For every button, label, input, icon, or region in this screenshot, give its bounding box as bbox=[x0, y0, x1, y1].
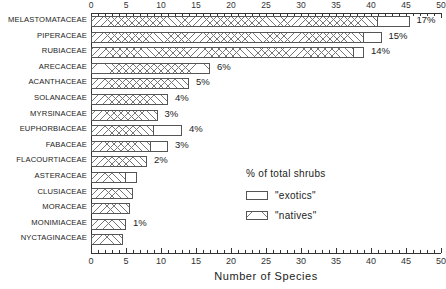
percent-label: 1% bbox=[133, 217, 147, 228]
minor-tick-bottom-9 bbox=[154, 250, 155, 253]
bar-segment-exotics bbox=[377, 16, 410, 27]
legend-title: % of total shrubs bbox=[246, 168, 326, 179]
minor-tick-bottom-3 bbox=[112, 250, 113, 253]
minor-tick-bottom-26 bbox=[273, 250, 274, 253]
minor-tick-bottom-1 bbox=[98, 250, 99, 253]
bar-group bbox=[91, 141, 168, 152]
minor-tick-bottom-11 bbox=[168, 250, 169, 253]
percent-label: 17% bbox=[417, 14, 436, 25]
bar-segment-natives bbox=[91, 47, 354, 58]
xtick-label-bottom-30: 30 bbox=[296, 256, 306, 266]
xtick-label-top-10: 10 bbox=[156, 0, 165, 10]
minor-tick-bottom-43 bbox=[392, 250, 393, 253]
category-label: EUPHORBIACEAE bbox=[0, 124, 87, 133]
bar-group bbox=[91, 47, 364, 58]
bar-group bbox=[91, 188, 133, 199]
major-tick-bottom-15 bbox=[196, 248, 197, 253]
category-label: ARECACEAE bbox=[0, 62, 87, 71]
shrub-species-bar-chart: 0055101015152020252530303535404045455050… bbox=[0, 0, 446, 289]
major-tick-bottom-5 bbox=[126, 248, 127, 253]
percent-label: 4% bbox=[175, 92, 189, 103]
major-tick-bottom-35 bbox=[336, 248, 337, 253]
xtick-label-bottom-0: 0 bbox=[88, 256, 93, 266]
minor-tick-bottom-18 bbox=[217, 250, 218, 253]
xtick-label-top-5: 5 bbox=[124, 0, 129, 10]
x-axis-label: Number of Species bbox=[91, 270, 441, 282]
bar-segment-exotics bbox=[150, 141, 169, 152]
xtick-label-top-30: 30 bbox=[296, 0, 305, 10]
bar-segment-natives bbox=[91, 156, 147, 167]
bar-segment-exotics bbox=[363, 32, 382, 43]
minor-tick-bottom-36 bbox=[343, 250, 344, 253]
category-label: MONIMIACEAE bbox=[0, 218, 87, 227]
bar-group bbox=[91, 110, 158, 121]
minor-tick-bottom-38 bbox=[357, 250, 358, 253]
legend-entry-exotics: "exotics" bbox=[246, 189, 316, 201]
legend-label-natives: "natives" bbox=[275, 210, 316, 221]
bar-group bbox=[91, 234, 123, 245]
minor-tick-bottom-41 bbox=[378, 250, 379, 253]
chart-row: EUPHORBIACEAE4% bbox=[0, 123, 446, 138]
major-tick-bottom-30 bbox=[301, 248, 302, 253]
xtick-label-bottom-50: 50 bbox=[436, 256, 446, 266]
xtick-label-top-20: 20 bbox=[226, 0, 235, 10]
chart-row: CLUSIACEAE bbox=[0, 186, 446, 201]
major-tick-bottom-40 bbox=[371, 248, 372, 253]
minor-tick-bottom-22 bbox=[245, 250, 246, 253]
legend-swatch-exotics-icon bbox=[246, 191, 268, 200]
bar-segment-natives bbox=[91, 110, 158, 121]
xtick-label-top-25: 25 bbox=[261, 0, 270, 10]
bar-segment-natives bbox=[91, 172, 126, 183]
minor-tick-bottom-31 bbox=[308, 250, 309, 253]
minor-tick-bottom-12 bbox=[175, 250, 176, 253]
percent-label: 15% bbox=[389, 30, 408, 41]
bar-segment-natives bbox=[91, 16, 378, 27]
xtick-label-bottom-15: 15 bbox=[191, 256, 201, 266]
major-tick-bottom-0 bbox=[91, 248, 92, 253]
bar-group bbox=[91, 203, 130, 214]
category-label: PIPERACEAE bbox=[0, 31, 87, 40]
major-tick-bottom-50 bbox=[441, 248, 442, 253]
major-tick-bottom-45 bbox=[406, 248, 407, 253]
percent-label: 14% bbox=[371, 45, 390, 56]
minor-tick-bottom-7 bbox=[140, 250, 141, 253]
minor-tick-bottom-34 bbox=[329, 250, 330, 253]
chart-row: NYCTAGINACEAE bbox=[0, 232, 446, 247]
category-label: FLACOURTIACEAE bbox=[0, 155, 87, 164]
chart-row: SOLANACEAE4% bbox=[0, 92, 446, 107]
bar-segment-natives bbox=[91, 203, 130, 214]
xtick-label-bottom-10: 10 bbox=[156, 256, 166, 266]
chart-row: FABACEAE3% bbox=[0, 139, 446, 154]
legend-entry-natives: "natives" bbox=[246, 209, 316, 221]
minor-tick-bottom-28 bbox=[287, 250, 288, 253]
minor-tick-bottom-13 bbox=[182, 250, 183, 253]
bar-segment-natives bbox=[91, 234, 123, 245]
chart-row: MORACEAE bbox=[0, 201, 446, 216]
xtick-label-bottom-25: 25 bbox=[261, 256, 271, 266]
category-label: RUBIACEAE bbox=[0, 46, 87, 55]
minor-tick-bottom-8 bbox=[147, 250, 148, 253]
percent-label: 2% bbox=[154, 154, 168, 165]
category-label: ACANTHACEAE bbox=[0, 77, 87, 86]
bar-group bbox=[91, 125, 182, 136]
xtick-label-top-40: 40 bbox=[366, 0, 375, 10]
xtick-label-top-35: 35 bbox=[331, 0, 340, 10]
bar-group bbox=[91, 219, 126, 230]
chart-row: ACANTHACEAE5% bbox=[0, 76, 446, 91]
major-tick-bottom-25 bbox=[266, 248, 267, 253]
minor-tick-bottom-44 bbox=[399, 250, 400, 253]
minor-tick-bottom-23 bbox=[252, 250, 253, 253]
minor-tick-bottom-39 bbox=[364, 250, 365, 253]
bar-segment-natives bbox=[91, 32, 364, 43]
legend-label-exotics: "exotics" bbox=[275, 190, 316, 201]
category-label: ASTERACEAE bbox=[0, 171, 87, 180]
xtick-label-bottom-5: 5 bbox=[123, 256, 128, 266]
bar-segment-natives bbox=[91, 141, 151, 152]
bar-segment-natives bbox=[91, 219, 126, 230]
bar-group bbox=[91, 78, 189, 89]
minor-tick-bottom-27 bbox=[280, 250, 281, 253]
xtick-label-top-45: 45 bbox=[401, 0, 410, 10]
percent-label: 3% bbox=[175, 139, 189, 150]
bar-group bbox=[91, 156, 147, 167]
xtick-label-top-15: 15 bbox=[191, 0, 200, 10]
